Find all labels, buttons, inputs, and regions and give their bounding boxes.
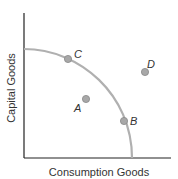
x-axis-label: Consumption Goods bbox=[49, 166, 150, 178]
point-b-marker bbox=[120, 117, 127, 124]
point-d-label: D bbox=[147, 58, 155, 70]
point-c-label: C bbox=[74, 48, 82, 60]
y-axis-label: Capital Goods bbox=[5, 53, 17, 123]
point-a-marker bbox=[82, 95, 89, 102]
point-b-label: B bbox=[130, 115, 137, 127]
point-d: D bbox=[141, 58, 155, 76]
ppf-diagram: C D A B Consumption Goods Capital Goods bbox=[0, 0, 178, 179]
point-c-marker bbox=[64, 55, 71, 62]
point-a-label: A bbox=[73, 102, 81, 114]
point-a: A bbox=[73, 95, 90, 114]
